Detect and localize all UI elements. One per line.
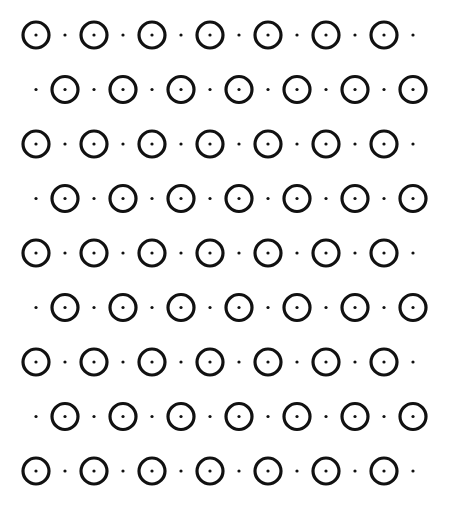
pattern-row (34, 186, 426, 212)
dot-icon (179, 469, 182, 472)
dot-icon (382, 197, 385, 200)
dot-icon (92, 197, 95, 200)
ring-dot-icon (81, 349, 107, 375)
ring-dot-icon (139, 349, 165, 375)
dot-icon (208, 197, 211, 200)
dot-icon (266, 88, 269, 91)
dot-icon (295, 360, 298, 363)
ring-dot-icon (226, 186, 252, 212)
dot-icon (237, 251, 240, 254)
pattern-row (34, 77, 426, 103)
ring-dot-icon (342, 295, 368, 321)
ring-dot-icon (226, 77, 252, 103)
dot-icon (411, 360, 414, 363)
ring-dot-icon (168, 186, 194, 212)
ring-dot-icon (313, 240, 339, 266)
ring-dot-icon (371, 131, 397, 157)
ring-dot-icon (342, 404, 368, 430)
dot-icon (324, 306, 327, 309)
ring-dot-icon (23, 22, 49, 48)
dot-icon (121, 142, 124, 145)
dot-icon (63, 142, 66, 145)
dot-icon (179, 142, 182, 145)
ring-dot-icon (197, 240, 223, 266)
ring-dot-icon (255, 458, 281, 484)
dot-icon (34, 197, 37, 200)
ring-dot-icon (371, 458, 397, 484)
ring-dot-icon (23, 131, 49, 157)
ring-dot-icon (400, 404, 426, 430)
ring-dot-icon (23, 240, 49, 266)
dot-icon (237, 469, 240, 472)
pattern-row (23, 240, 415, 266)
ring-dot-icon (342, 186, 368, 212)
ring-dot-icon (400, 77, 426, 103)
ring-dot-icon (52, 295, 78, 321)
dot-icon (208, 415, 211, 418)
dot-icon (266, 306, 269, 309)
dot-icon (411, 251, 414, 254)
ring-dot-icon (313, 349, 339, 375)
ring-dot-icon (52, 404, 78, 430)
ring-dot-icon (226, 404, 252, 430)
ring-dot-icon (255, 22, 281, 48)
dot-icon (353, 251, 356, 254)
ring-dot-icon (139, 22, 165, 48)
dot-icon (324, 197, 327, 200)
dot-icon (34, 415, 37, 418)
ring-dot-icon (197, 458, 223, 484)
pattern-row (23, 458, 415, 484)
ring-dot-icon (168, 295, 194, 321)
dot-icon (92, 415, 95, 418)
ring-dot-icon (226, 295, 252, 321)
ring-dot-icon (197, 131, 223, 157)
ring-dot-icon (371, 349, 397, 375)
dot-icon (92, 306, 95, 309)
dot-icon (121, 360, 124, 363)
ring-dot-icon (23, 458, 49, 484)
dot-icon (411, 33, 414, 36)
ring-dot-icon (139, 131, 165, 157)
dot-icon (411, 142, 414, 145)
circle-dot-pattern (0, 0, 452, 507)
ring-dot-icon (371, 22, 397, 48)
pattern-row (34, 404, 426, 430)
ring-dot-icon (168, 404, 194, 430)
ring-dot-icon (400, 186, 426, 212)
ring-dot-icon (52, 186, 78, 212)
dot-icon (295, 142, 298, 145)
ring-dot-icon (110, 186, 136, 212)
ring-dot-icon (139, 458, 165, 484)
dot-icon (295, 33, 298, 36)
ring-dot-icon (81, 22, 107, 48)
ring-dot-icon (197, 22, 223, 48)
dot-icon (237, 142, 240, 145)
ring-dot-icon (284, 77, 310, 103)
ring-dot-icon (255, 131, 281, 157)
dot-icon (121, 33, 124, 36)
dot-icon (324, 415, 327, 418)
dot-icon (150, 415, 153, 418)
ring-dot-icon (139, 240, 165, 266)
dot-icon (295, 251, 298, 254)
dot-icon (63, 469, 66, 472)
ring-dot-icon (342, 77, 368, 103)
ring-dot-icon (313, 458, 339, 484)
dot-icon (411, 469, 414, 472)
dot-icon (208, 88, 211, 91)
dot-icon (34, 306, 37, 309)
ring-dot-icon (371, 240, 397, 266)
dot-icon (266, 415, 269, 418)
dot-icon (266, 197, 269, 200)
dot-icon (179, 33, 182, 36)
dot-icon (382, 306, 385, 309)
dot-icon (179, 360, 182, 363)
pattern-row (34, 295, 426, 321)
ring-dot-icon (81, 240, 107, 266)
ring-dot-icon (313, 22, 339, 48)
pattern-row (23, 131, 415, 157)
ring-dot-icon (81, 131, 107, 157)
dot-icon (92, 88, 95, 91)
pattern-row (23, 22, 415, 48)
dot-icon (353, 469, 356, 472)
